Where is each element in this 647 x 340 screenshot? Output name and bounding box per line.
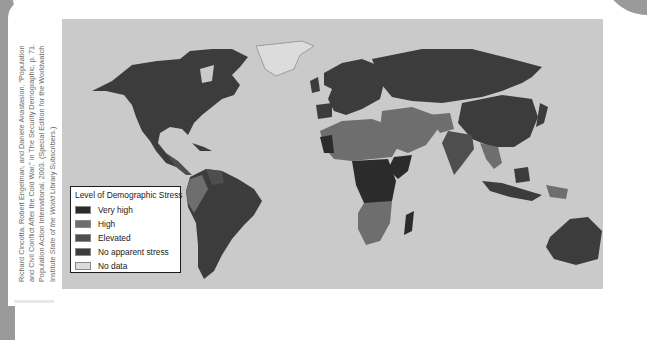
region-africa-west xyxy=(320,135,334,153)
region-russia xyxy=(372,49,542,103)
swatch-very-high xyxy=(75,206,91,214)
legend-label: Elevated xyxy=(98,233,131,243)
footer-mark xyxy=(14,300,54,303)
credit-line-2: and Civil Conflict After the Cold War,” … xyxy=(27,10,37,282)
swatch-elevated xyxy=(75,234,91,242)
region-png xyxy=(546,185,568,199)
source-credit: Richard Cincotta, Robert Engelman, and D… xyxy=(17,10,61,282)
legend-title: Level of Demographic Stress xyxy=(75,190,176,200)
legend-label: No apparent stress xyxy=(98,247,169,257)
region-uk xyxy=(310,77,320,93)
map-legend: Level of Demographic Stress Very high Hi… xyxy=(70,186,181,273)
credit-line-4: Institute State of the World Library Sub… xyxy=(48,10,58,282)
swatch-no-apparent-stress xyxy=(75,248,91,256)
legend-label: No data xyxy=(98,261,127,271)
legend-item-high: High xyxy=(75,217,176,231)
region-greenland xyxy=(256,41,314,76)
publication-title: State of the World xyxy=(48,196,57,254)
region-japan xyxy=(536,103,548,127)
world-map: Level of Demographic Stress Very high Hi… xyxy=(62,19,603,289)
swatch-high xyxy=(75,220,91,228)
swatch-no-data xyxy=(75,262,91,270)
region-caribbean xyxy=(192,143,212,151)
legend-label: Very high xyxy=(98,205,133,215)
region-india xyxy=(442,131,474,175)
region-indonesia xyxy=(482,181,542,201)
region-north-america xyxy=(92,49,248,167)
region-madagascar xyxy=(404,211,414,235)
region-europe xyxy=(324,59,384,115)
credit-line-1: Richard Cincotta, Robert Engelman, and D… xyxy=(17,10,27,282)
region-iberia xyxy=(316,103,332,119)
credit-line-3: Population Action International, 2003. (… xyxy=(37,10,47,282)
region-australia xyxy=(546,217,602,265)
legend-item-very-high: Very high xyxy=(75,203,176,217)
legend-label: High xyxy=(98,219,115,229)
legend-item-no-data: No data xyxy=(75,259,176,273)
region-africa-south xyxy=(358,201,392,245)
region-borneo xyxy=(514,167,530,183)
legend-item-no-apparent-stress: No apparent stress xyxy=(75,245,176,259)
legend-item-elevated: Elevated xyxy=(75,231,176,245)
